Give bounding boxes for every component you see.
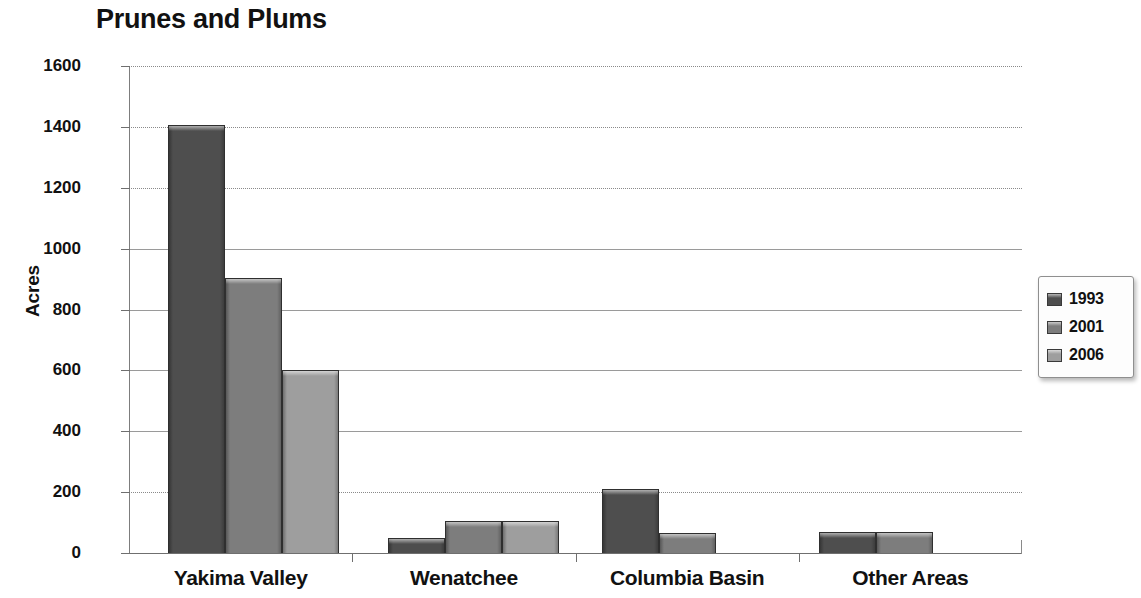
legend-item[interactable]: 2006 — [1047, 341, 1127, 369]
legend-label: 2006 — [1069, 346, 1104, 364]
y-axis-tick — [121, 188, 130, 189]
bar-highlight — [820, 533, 875, 538]
bar-shadow-left — [226, 279, 230, 553]
x-axis-category-label: Other Areas — [799, 566, 1022, 590]
bar — [168, 125, 225, 553]
y-axis-tick-label: 1600 — [1, 57, 81, 74]
bar-face — [169, 126, 224, 553]
x-axis-tick — [799, 553, 800, 562]
y-axis-tick-label: 1200 — [1, 179, 81, 196]
y-axis-title: Acres — [22, 246, 44, 336]
bar-shadow-left — [169, 126, 173, 553]
bar-highlight — [389, 539, 444, 544]
gridline — [129, 249, 1022, 250]
bar-face — [877, 533, 932, 553]
x-axis-tick — [352, 553, 353, 562]
x-axis-category-label: Wenatchee — [352, 566, 575, 590]
bar-face — [226, 279, 281, 553]
bar-chart: Prunes and Plums Acres 02004006008001000… — [0, 0, 1141, 598]
y-axis-tick — [121, 492, 130, 493]
bar-highlight — [169, 126, 224, 131]
gridline — [129, 188, 1022, 189]
legend-swatch-icon — [1047, 293, 1062, 306]
bar — [445, 521, 502, 553]
legend-label: 2001 — [1069, 318, 1104, 336]
y-axis-tick — [121, 66, 130, 67]
bar-face — [503, 522, 558, 553]
right-edge-tick — [1021, 540, 1022, 554]
gridline — [129, 66, 1022, 67]
bar-highlight — [446, 522, 501, 527]
legend-swatch-highlight — [1048, 294, 1061, 298]
bar — [876, 532, 933, 553]
bar-shadow-right — [220, 126, 224, 553]
bar-face — [660, 534, 715, 553]
bar — [388, 538, 445, 553]
chart-title: Prunes and Plums — [96, 4, 327, 35]
chart-legend: 199320012006 — [1038, 276, 1134, 378]
legend-swatch-highlight — [1048, 350, 1061, 354]
legend-swatch-icon — [1047, 321, 1062, 334]
bar-shadow-left — [603, 490, 607, 553]
bar-shadow-right — [334, 371, 338, 553]
plot-area — [129, 66, 1022, 553]
bar-face — [820, 533, 875, 553]
x-axis-tick — [576, 553, 577, 562]
y-axis-tick — [121, 553, 130, 554]
y-axis-tick-label: 1400 — [1, 118, 81, 135]
bar-face — [283, 371, 338, 553]
y-axis-tick — [121, 431, 130, 432]
bar-face — [389, 539, 444, 553]
bar-shadow-right — [277, 279, 281, 553]
bar-face — [446, 522, 501, 553]
bar — [502, 521, 559, 553]
legend-swatch-icon — [1047, 349, 1062, 362]
x-axis-category-label: Columbia Basin — [576, 566, 799, 590]
y-axis-tick — [121, 370, 130, 371]
bar — [225, 278, 282, 553]
y-axis-tick — [121, 310, 130, 311]
gridline — [129, 127, 1022, 128]
bar-highlight — [660, 534, 715, 539]
bar-shadow-right — [654, 490, 658, 553]
bar-highlight — [877, 533, 932, 538]
y-axis-tick-label: 800 — [1, 301, 81, 318]
y-axis-tick-label: 1000 — [1, 240, 81, 257]
legend-item[interactable]: 1993 — [1047, 285, 1127, 313]
x-axis-category-label: Yakima Valley — [129, 566, 352, 590]
y-axis-tick — [121, 127, 130, 128]
bar-shadow-left — [283, 371, 287, 553]
y-axis-tick-label: 400 — [1, 422, 81, 439]
legend-swatch-highlight — [1048, 322, 1061, 326]
bar-highlight — [226, 279, 281, 284]
y-axis-tick-label: 0 — [1, 544, 81, 561]
bar-face — [603, 490, 658, 553]
bar — [602, 489, 659, 553]
legend-label: 1993 — [1069, 290, 1104, 308]
bar-highlight — [503, 522, 558, 527]
bar — [819, 532, 876, 553]
legend-item[interactable]: 2001 — [1047, 313, 1127, 341]
bar-highlight — [283, 371, 338, 376]
bar-highlight — [603, 490, 658, 495]
bar — [659, 533, 716, 553]
y-axis-tick-label: 200 — [1, 483, 81, 500]
y-axis-tick — [121, 249, 130, 250]
bar — [282, 370, 339, 553]
y-axis-tick-label: 600 — [1, 361, 81, 378]
